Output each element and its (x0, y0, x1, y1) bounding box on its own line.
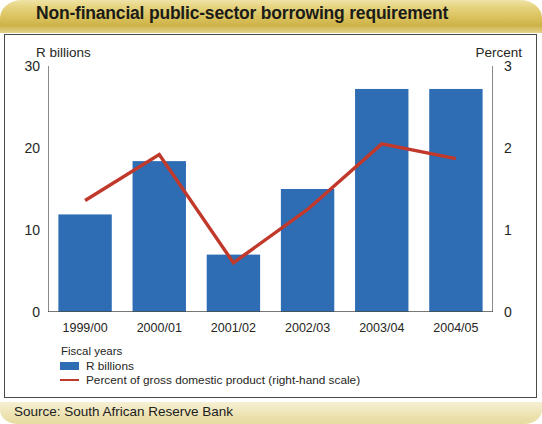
plot-area (48, 66, 493, 312)
legend-title: Fiscal years (60, 345, 360, 357)
chart-legend: Fiscal years R billions Percent of gross… (60, 345, 360, 387)
chart-canvas (48, 66, 493, 312)
legend-swatch-bar-icon (60, 362, 79, 370)
bar-1999-00 (58, 214, 111, 312)
right-tick-label-0: 0 (504, 304, 512, 320)
left-tick-label-0: 0 (2, 304, 40, 320)
legend-label-bar: R billions (86, 359, 134, 373)
right-axis-title: Percent (475, 45, 522, 60)
legend-item-line: Percent of gross domestic product (right… (60, 373, 360, 387)
left-tick-label-10: 10 (2, 222, 40, 238)
bar-series (58, 89, 482, 312)
x-tick-label-2000-01: 2000/01 (137, 321, 182, 335)
chart-figure: Non-financial public-sector borrowing re… (0, 0, 542, 424)
x-tick-label-2002-03: 2002/03 (285, 321, 330, 335)
legend-item-bar: R billions (60, 359, 360, 373)
bar-2004-05 (429, 89, 482, 312)
right-tick-label-2: 2 (504, 140, 512, 156)
page-title: Non-financial public-sector borrowing re… (36, 3, 448, 24)
right-tick-label-1: 1 (504, 222, 512, 238)
x-tick-label-2001-02: 2001/02 (211, 321, 256, 335)
left-tick-label-20: 20 (2, 140, 40, 156)
x-tick-label-2004-05: 2004/05 (433, 321, 478, 335)
source-label: Source: South African Reserve Bank (14, 404, 233, 419)
right-tick-label-3: 3 (504, 58, 512, 74)
left-tick-label-30: 30 (2, 58, 40, 74)
axes-group (48, 66, 493, 312)
source-band: Source: South African Reserve Bank (0, 402, 542, 424)
title-banner: Non-financial public-sector borrowing re… (0, 0, 542, 33)
legend-label-line: Percent of gross domestic product (right… (86, 373, 360, 387)
x-tick-label-2003-04: 2003/04 (359, 321, 404, 335)
x-tick-label-1999-00: 1999/00 (62, 321, 107, 335)
legend-swatch-line-icon (60, 379, 79, 381)
left-axis-title: R billions (36, 45, 91, 60)
bar-2003-04 (355, 89, 408, 312)
